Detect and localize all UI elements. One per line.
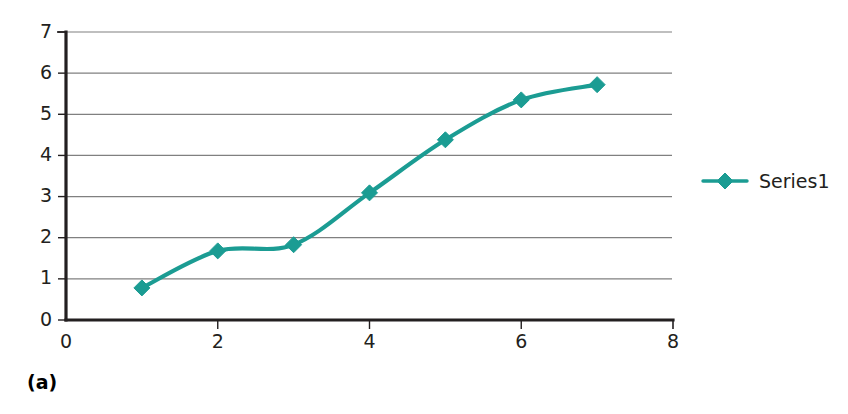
y-tick-label-5: 5 <box>40 102 52 124</box>
x-tick-label-4: 4 <box>363 330 375 352</box>
data-point-marker <box>134 280 150 296</box>
x-tick-label-6: 6 <box>515 330 527 352</box>
chart-legend: Series1 <box>703 170 830 192</box>
series-markers <box>134 77 605 296</box>
y-tick-label-2: 2 <box>40 225 52 247</box>
data-point-marker <box>589 77 605 93</box>
x-tick-label-2: 2 <box>212 330 224 352</box>
line-chart: 01234567 02468 Series1 <box>0 0 848 414</box>
gridlines <box>66 32 672 279</box>
data-point-marker <box>286 237 302 253</box>
data-point-marker <box>513 92 529 108</box>
figure-caption: (a) <box>27 371 57 393</box>
x-tick-label-8: 8 <box>667 330 679 352</box>
x-axis-ticks: 02468 <box>60 320 679 352</box>
y-tick-label-4: 4 <box>40 143 52 165</box>
y-tick-label-0: 0 <box>40 308 52 330</box>
legend-label: Series1 <box>759 170 830 192</box>
data-point-marker <box>210 243 226 259</box>
y-tick-label-1: 1 <box>40 266 52 288</box>
y-tick-label-6: 6 <box>40 61 52 83</box>
figure-panel-a: 01234567 02468 Series1 (a) <box>0 0 848 414</box>
x-tick-label-0: 0 <box>60 330 72 352</box>
y-tick-label-3: 3 <box>40 184 52 206</box>
legend-diamond-marker <box>717 173 733 189</box>
y-axis-ticks: 01234567 <box>40 20 66 330</box>
y-tick-label-7: 7 <box>40 20 52 42</box>
